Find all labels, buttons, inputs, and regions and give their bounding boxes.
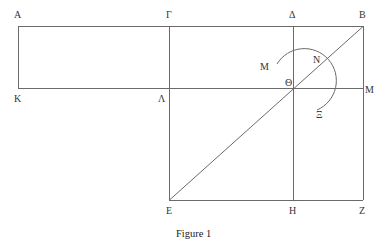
geometric-figure: A Γ Δ B K Λ Θ M M N Ξ E H Z Figure 1 — [0, 0, 385, 246]
label-H: H — [289, 205, 296, 216]
label-M-arc: M — [260, 61, 269, 72]
figure-caption: Figure 1 — [176, 228, 211, 239]
label-Gamma: Γ — [166, 9, 172, 20]
label-Delta: Δ — [289, 9, 296, 20]
label-E: E — [166, 205, 172, 216]
label-K: K — [14, 93, 22, 104]
label-N: N — [313, 54, 320, 65]
label-Z: Z — [359, 205, 365, 216]
label-Theta: Θ — [285, 77, 292, 88]
diagonal-E-B — [170, 27, 364, 201]
label-A: A — [14, 9, 22, 20]
label-Lambda: Λ — [158, 93, 166, 104]
label-M-right: M — [365, 84, 374, 95]
label-B: B — [359, 9, 366, 20]
label-Xi: Ξ — [316, 109, 322, 120]
